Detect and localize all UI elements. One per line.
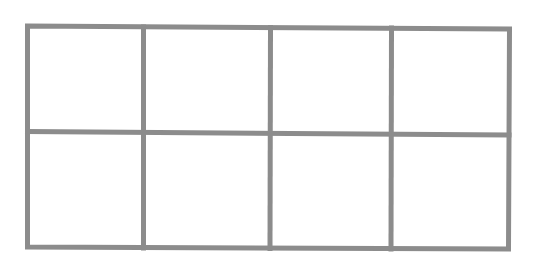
grid-column-divider-2	[270, 28, 271, 249]
grid-column-divider-3	[391, 28, 392, 249]
grid-diagram	[0, 0, 534, 265]
